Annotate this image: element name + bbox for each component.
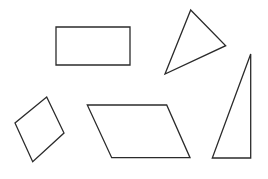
parallelogram-shape [87, 105, 190, 158]
rhombus-shape [15, 97, 64, 162]
shapes-diagram [0, 0, 268, 179]
acute-triangle-shape [165, 10, 226, 74]
right-triangle-shape [212, 54, 250, 158]
rectangle-shape [56, 27, 130, 65]
